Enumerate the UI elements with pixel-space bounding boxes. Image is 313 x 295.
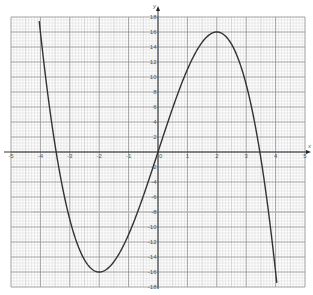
function-graph: -5-4-3-2-1012345 18161412108642-2-4-6-8-… [0,0,313,295]
axes [4,6,311,289]
y-tick-label: 12 [150,59,157,65]
y-tick-label: -18 [148,284,157,290]
y-tick-label: -12 [148,239,157,245]
y-tick-label: 18 [150,14,157,20]
y-tick-label: 10 [150,74,157,80]
x-tick-label: 5 [303,153,307,159]
y-tick-label: -14 [148,254,157,260]
y-tick-label: -6 [151,194,157,200]
x-tick-label: -5 [8,153,14,159]
y-tick-label: 14 [150,44,157,50]
y-tick-label: -16 [148,269,157,275]
y-tick-label: -10 [148,224,157,230]
y-tick-label: -8 [151,209,157,215]
y-tick-label: 16 [150,29,157,35]
x-tick-label: -4 [38,153,44,159]
x-tick-label: -1 [126,153,132,159]
y-axis-label: y [152,3,157,9]
x-tick-label: -3 [67,153,73,159]
y-tick-label: -4 [151,179,157,185]
x-axis-label: x [307,143,312,149]
x-tick-label: -2 [97,153,103,159]
